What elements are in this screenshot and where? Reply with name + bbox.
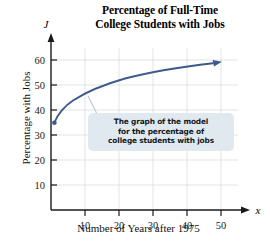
- callout-line-3: college students with jobs: [92, 136, 230, 146]
- y-tick-label-30: 30: [35, 130, 46, 141]
- y-axis-label: Percentage with Jobs: [20, 43, 32, 193]
- x-axis-variable-label: x: [255, 204, 261, 216]
- callout-line-1: The graph of the model: [92, 117, 230, 127]
- y-tick-label-20: 20: [35, 155, 46, 166]
- y-axis-arrowhead: [48, 33, 55, 42]
- curve-arrowhead: [213, 60, 222, 67]
- model-callout: The graph of the model for the percentag…: [88, 113, 234, 151]
- y-tick-label-40: 40: [35, 105, 46, 116]
- x-axis-label: Number of Years after 1975: [36, 222, 241, 234]
- y-tick-label-50: 50: [35, 80, 46, 91]
- callout-line-2: for the percentage of: [92, 127, 230, 137]
- x-axis-arrowhead: [241, 207, 250, 214]
- chart-figure: Percentage of Full-Time College Students…: [0, 0, 270, 247]
- y-tick-label-60: 60: [35, 55, 46, 66]
- x-ticks: [85, 210, 221, 216]
- y-axis-variable-label: J: [44, 18, 50, 30]
- y-tick-label-10: 10: [35, 180, 46, 191]
- curve-start-point: [52, 121, 57, 126]
- callout-leader-line: [88, 96, 97, 114]
